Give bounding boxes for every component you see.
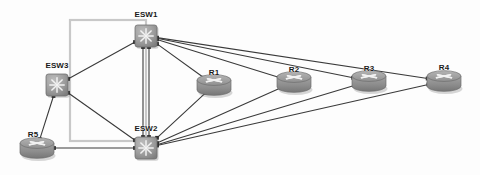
node-label-esw3: ESW3 — [45, 61, 68, 70]
node-label-esw1: ESW1 — [134, 10, 157, 19]
node-label-r1: R1 — [209, 68, 219, 77]
switch-node-esw1[interactable] — [135, 25, 159, 49]
network-link — [68, 93, 135, 140]
router-node-r3[interactable] — [352, 71, 388, 94]
node-label-r3: R3 — [364, 64, 374, 73]
network-link — [157, 85, 354, 144]
router-node-r5[interactable] — [20, 138, 56, 161]
network-link — [40, 96, 54, 139]
network-link — [157, 93, 206, 138]
network-link — [157, 38, 353, 78]
router-node-r1[interactable] — [197, 75, 233, 98]
switch-node-esw2[interactable] — [135, 137, 159, 161]
node-label-r4: R4 — [439, 63, 449, 72]
network-topology-diagram: ESW1ESW2ESW3R1R2R3R4R5 — [0, 0, 480, 175]
switch-node-esw3[interactable] — [46, 74, 70, 98]
router-node-r4[interactable] — [427, 71, 463, 94]
network-link — [68, 42, 135, 79]
router-node-r2[interactable] — [277, 72, 313, 95]
node-label-r5: R5 — [28, 130, 38, 139]
node-label-r2: R2 — [289, 65, 299, 74]
node-label-esw2: ESW2 — [134, 124, 157, 133]
network-link — [157, 44, 204, 78]
topology-canvas — [0, 0, 480, 175]
